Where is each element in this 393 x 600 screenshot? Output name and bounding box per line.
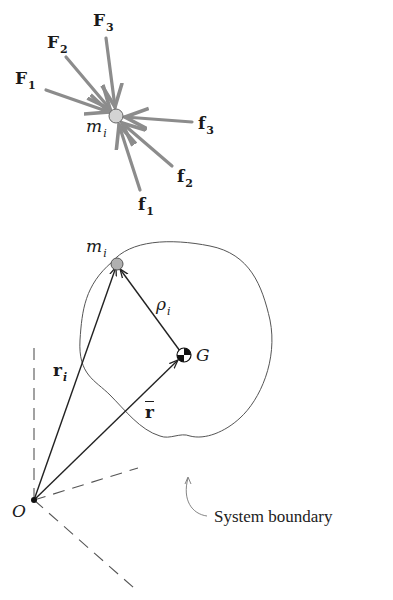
boundary-leader-arrow — [186, 478, 207, 516]
label-r-bar: r — [145, 404, 154, 421]
label-particle-system: mi — [86, 238, 107, 255]
particle-top-icon — [109, 109, 123, 123]
label-F1: F1 — [15, 70, 36, 87]
label-particle-top: mi — [86, 118, 107, 135]
vector-r-i-arrow — [34, 267, 116, 500]
origin-point-icon — [31, 497, 37, 503]
label-G: G — [196, 347, 210, 364]
label-F3: F3 — [93, 12, 114, 29]
label-rho-i: ρi — [156, 296, 171, 313]
reference-axes — [34, 342, 138, 588]
diagram-graphics — [0, 0, 393, 600]
vector-r-bar-arrow — [34, 360, 178, 500]
label-f1: f1 — [138, 196, 154, 213]
label-f2: f2 — [177, 168, 193, 185]
axis-diagonal-down-dashed — [34, 500, 134, 588]
label-system-boundary: System boundary — [214, 508, 333, 525]
particle-system-icon — [111, 258, 123, 270]
system-boundary-curve — [80, 242, 272, 437]
force-F3-arrow — [106, 38, 115, 107]
vector-rho-i-arrow — [120, 269, 180, 351]
label-F2: F2 — [47, 34, 68, 51]
force-F1-arrow — [46, 90, 109, 112]
force-F2-arrow — [66, 57, 110, 109]
free-body-diagram: F1 F2 F3 mi f3 f2 f1 mi ρi G ri r O Syst… — [0, 0, 393, 600]
force-f3-arrow — [125, 117, 192, 122]
label-f3: f3 — [198, 115, 214, 132]
label-r-i: ri — [53, 362, 67, 379]
mass-center-icon — [177, 348, 191, 362]
label-origin: O — [12, 503, 26, 520]
